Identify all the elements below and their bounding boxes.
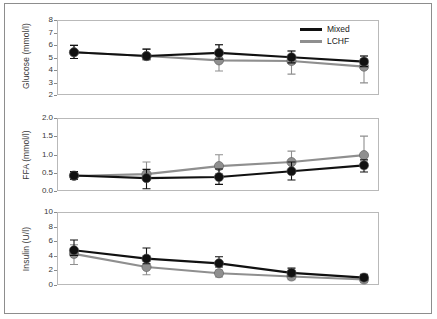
y-tick-mark <box>54 270 57 271</box>
y-tick-label: 8 <box>23 16 53 24</box>
y-tick-label: 6 <box>23 41 53 49</box>
data-point-marker <box>359 273 368 282</box>
data-point-marker <box>69 246 78 255</box>
y-tick-label: 1.0 <box>23 151 53 159</box>
y-tick-mark <box>54 58 57 59</box>
y-tick-mark <box>54 118 57 119</box>
y-tick-mark <box>54 70 57 71</box>
y-tick-mark <box>54 33 57 34</box>
y-tick-mark <box>54 285 57 286</box>
panel-insulin-series-layer <box>58 213 380 286</box>
y-tick-label: 2 <box>23 266 53 274</box>
data-point-marker <box>142 254 151 263</box>
y-tick-mark <box>54 20 57 21</box>
y-tick-label: 1.5 <box>23 132 53 140</box>
y-tick-label: 7 <box>23 29 53 37</box>
y-tick-mark <box>54 45 57 46</box>
data-point-marker <box>359 151 368 160</box>
data-point-marker <box>214 48 223 57</box>
y-tick-mark <box>54 173 57 174</box>
y-tick-label: 4 <box>23 66 53 74</box>
data-point-marker <box>142 51 151 60</box>
data-point-marker <box>359 161 368 170</box>
y-tick-label: 8 <box>23 223 53 231</box>
y-tick-mark <box>54 256 57 257</box>
y-tick-mark <box>54 191 57 192</box>
y-tick-mark <box>54 212 57 213</box>
legend-item-lchf: LCHF <box>300 36 350 46</box>
data-point-marker <box>214 269 223 278</box>
y-tick-mark <box>54 155 57 156</box>
data-point-marker <box>287 53 296 62</box>
y-tick-label: 4 <box>23 252 53 260</box>
legend-swatch-mixed <box>300 28 322 31</box>
figure-root: Glucose (mmol/l) 2345678 Mixed LCHF FFA … <box>0 0 437 319</box>
data-point-marker <box>214 172 223 181</box>
legend-swatch-lchf <box>300 40 322 43</box>
y-tick-label: 6 <box>23 237 53 245</box>
legend-label-mixed: Mixed <box>327 25 350 34</box>
y-tick-label: 10 <box>23 208 53 216</box>
panel-ffa: FFA (mmol/l) 0.00.51.01.52.0 <box>10 108 428 204</box>
y-tick-label: 2.0 <box>23 114 53 122</box>
y-tick-mark <box>54 227 57 228</box>
legend-item-mixed: Mixed <box>300 24 350 34</box>
data-point-marker <box>142 174 151 183</box>
data-point-marker <box>69 48 78 57</box>
y-tick-label: 0.5 <box>23 169 53 177</box>
data-point-marker <box>214 259 223 268</box>
panel-insulin: Insulin (U/l) 0246810 <box>10 204 428 300</box>
y-tick-mark <box>54 95 57 96</box>
y-tick-label: 3 <box>23 79 53 87</box>
chart-legend: Mixed LCHF <box>300 24 350 46</box>
y-tick-label: 0.0 <box>23 187 53 195</box>
data-point-marker <box>287 268 296 277</box>
panel-ffa-plot-area <box>57 118 379 191</box>
data-point-marker <box>287 167 296 176</box>
y-tick-label: 5 <box>23 54 53 62</box>
y-tick-label: 2 <box>23 91 53 99</box>
y-tick-mark <box>54 83 57 84</box>
data-point-marker <box>69 171 78 180</box>
panel-glucose: Glucose (mmol/l) 2345678 Mixed LCHF <box>10 8 428 108</box>
panel-insulin-plot-area <box>57 212 379 285</box>
y-tick-mark <box>54 241 57 242</box>
panel-ffa-series-layer <box>58 119 380 192</box>
legend-label-lchf: LCHF <box>327 37 349 46</box>
y-tick-mark <box>54 136 57 137</box>
y-tick-label: 0 <box>23 281 53 289</box>
data-point-marker <box>359 57 368 66</box>
